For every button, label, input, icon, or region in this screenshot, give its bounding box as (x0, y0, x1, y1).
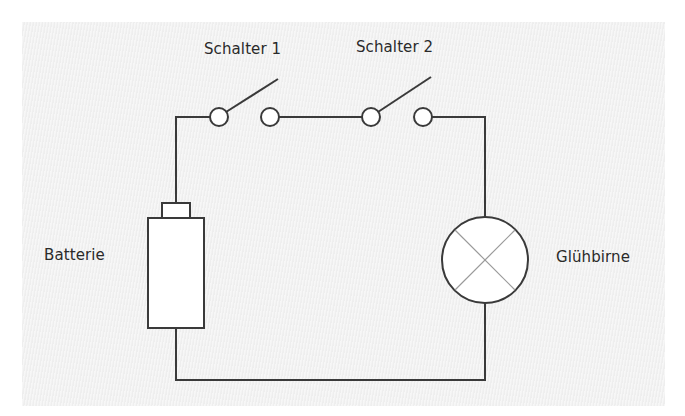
circuit-diagram (0, 0, 685, 416)
switch-2-symbol (362, 77, 432, 126)
battery-label: Batterie (44, 246, 105, 264)
wires (176, 117, 485, 380)
wire-bottom (176, 303, 485, 380)
wire-right-top (432, 117, 485, 217)
switch-1-contact-left (210, 108, 228, 126)
switch-2-contact-left (362, 108, 380, 126)
switch-1-label: Schalter 1 (204, 40, 281, 58)
switch-2-label: Schalter 2 (356, 38, 433, 56)
wire-left-top (176, 117, 210, 202)
battery-cap (162, 203, 190, 218)
switch-1-contact-right (261, 108, 279, 126)
switch-2-lever (378, 77, 431, 112)
switch-2-contact-right (414, 108, 432, 126)
switch-1-symbol (210, 79, 279, 126)
battery-body (148, 218, 204, 328)
lamp-symbol (442, 217, 528, 303)
battery-symbol (148, 203, 204, 328)
bulb-label: Glühbirne (556, 248, 630, 266)
